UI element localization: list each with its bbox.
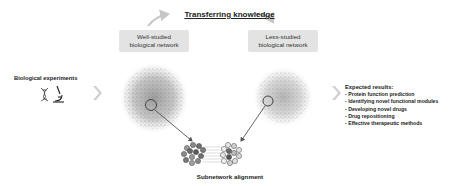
less-studied-label-line1: Less-studied (248, 33, 318, 41)
well-studied-label-line1: Well-studied (119, 33, 189, 41)
dna-icon (41, 88, 48, 101)
subnetwork-alignment-label: Subnetwork alignment (170, 173, 290, 180)
aligned-subnetwork-left (181, 142, 205, 165)
well-studied-label-line2: biological network (119, 41, 189, 49)
result-item: - Drug repositioning (345, 113, 438, 120)
well-studied-network-graph (120, 63, 188, 133)
result-item: - Effective therapeutic methods (345, 120, 438, 127)
less-studied-network-label: Less-studied biological network (248, 30, 318, 52)
less-studied-network-graph (253, 67, 313, 127)
expected-results-heading: Expected results: (345, 84, 438, 91)
result-item: - Developing novel drugs (345, 106, 438, 113)
subnetwork-alignment-graphic (181, 142, 241, 165)
arrow-right-to-alignment (241, 106, 265, 141)
transferring-knowledge-title: Transferring knowledge (0, 10, 459, 19)
well-studied-network-label: Well-studied biological network (119, 30, 189, 52)
aligned-subnetwork-right (220, 142, 241, 165)
result-item: - Identifying novel functional modules (345, 98, 438, 105)
expected-results-list: Expected results: - Protein function pre… (345, 84, 438, 127)
chevron-right-icon-input (93, 86, 102, 100)
result-item: - Protein function prediction (345, 91, 438, 98)
chevron-right-icon-output (332, 86, 341, 100)
biological-experiments-label: Biological experiments (14, 75, 77, 81)
microscope-icon (53, 86, 64, 102)
less-studied-label-line2: biological network (248, 41, 318, 49)
